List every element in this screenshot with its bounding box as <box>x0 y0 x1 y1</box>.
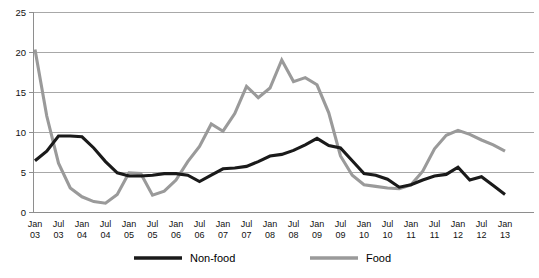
x-tick-label-year: 10 <box>382 230 392 240</box>
x-tick-label-year: 11 <box>430 230 439 240</box>
x-tick-label-year: 09 <box>312 230 322 240</box>
x-tick-label-year: 08 <box>265 230 275 240</box>
x-tick-label-year: 06 <box>171 230 181 240</box>
x-tick-label-month: Jan <box>357 219 372 229</box>
x-tick-label-year: 13 <box>500 230 510 240</box>
x-tick-label-month: Jan <box>216 219 231 229</box>
x-tick-label-month: Jan <box>28 219 43 229</box>
x-tick-label-month: Jan <box>169 219 184 229</box>
x-tick-label-month: Jul <box>147 219 159 229</box>
x-tick-label-year: 04 <box>100 230 110 240</box>
x-tick-label-year: 11 <box>406 230 415 240</box>
x-tick-label-month: Jul <box>241 219 253 229</box>
x-tick-label-month: Jul <box>335 219 347 229</box>
x-tick-label-year: 09 <box>335 230 345 240</box>
x-tick-label-year: 07 <box>218 230 228 240</box>
x-tick-label-year: 04 <box>77 230 87 240</box>
x-tick-label-month: Jul <box>100 219 112 229</box>
x-tick-label-month: Jul <box>288 219 300 229</box>
x-tick-label-month: Jan <box>451 219 466 229</box>
x-tick-label-month: Jul <box>53 219 65 229</box>
y-axis: 0510152025 <box>15 7 33 218</box>
x-tick-label-month: Jan <box>404 219 419 229</box>
x-tick-label-year: 12 <box>476 230 486 240</box>
chart-legend: Non-foodFood <box>134 252 391 264</box>
series-line-food <box>35 50 505 204</box>
legend-label-non-food: Non-food <box>190 252 235 264</box>
x-tick-label-year: 08 <box>288 230 298 240</box>
y-tick-label: 25 <box>15 7 26 18</box>
y-tick-label: 0 <box>21 207 26 218</box>
gridlines <box>33 13 534 213</box>
y-tick-label: 15 <box>15 87 26 98</box>
line-chart: 0510152025 Jan03Jul03Jan04Jul04Jan05Jul0… <box>0 0 539 278</box>
x-tick-label-year: 07 <box>241 230 251 240</box>
x-tick-label-month: Jul <box>382 219 394 229</box>
x-tick-label-year: 12 <box>453 230 463 240</box>
chart-canvas: 0510152025 Jan03Jul03Jan04Jul04Jan05Jul0… <box>0 0 539 278</box>
x-tick-label-month: Jan <box>310 219 325 229</box>
x-tick-label-month: Jan <box>498 219 513 229</box>
series-line-non-food <box>35 136 505 194</box>
x-tick-label-year: 10 <box>359 230 369 240</box>
y-tick-label: 20 <box>15 47 26 58</box>
x-tick-label-year: 06 <box>194 230 204 240</box>
x-tick-label-month: Jan <box>122 219 137 229</box>
x-tick-label-year: 05 <box>147 230 157 240</box>
x-axis: Jan03Jul03Jan04Jul04Jan05Jul05Jan06Jul06… <box>28 219 513 240</box>
x-tick-label-year: 03 <box>30 230 40 240</box>
x-tick-label-month: Jan <box>75 219 90 229</box>
x-tick-label-month: Jul <box>429 219 441 229</box>
x-tick-label-year: 05 <box>124 230 134 240</box>
series-lines <box>35 50 505 204</box>
legend-label-food: Food <box>366 252 391 264</box>
y-tick-label: 10 <box>15 127 26 138</box>
x-tick-label-month: Jan <box>263 219 278 229</box>
x-tick-label-year: 03 <box>53 230 63 240</box>
x-tick-label-month: Jul <box>476 219 488 229</box>
x-tick-label-month: Jul <box>194 219 206 229</box>
y-tick-label: 5 <box>21 167 26 178</box>
